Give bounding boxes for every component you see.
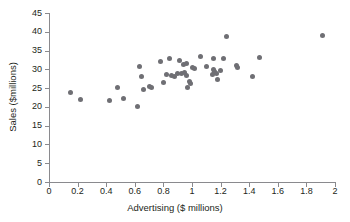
x-tick-label: 0.6: [123, 187, 147, 196]
data-point: [221, 56, 226, 61]
data-point: [215, 77, 220, 82]
data-point: [141, 87, 146, 92]
x-axis-title: Advertising ($ millions): [0, 203, 350, 213]
plot-area: [49, 13, 335, 182]
data-point: [107, 98, 112, 103]
y-tick-label: 40: [20, 27, 42, 36]
y-tick-label: 35: [20, 46, 42, 55]
x-tick-label: 0.8: [151, 187, 175, 196]
data-point: [235, 65, 240, 70]
x-tick-label: 0.2: [66, 187, 90, 196]
y-tick-label: 10: [20, 140, 42, 149]
data-point: [78, 97, 83, 102]
y-tick-label: 5: [20, 159, 42, 168]
data-point: [161, 80, 166, 85]
data-point: [167, 56, 172, 61]
y-tick-label: 25: [20, 84, 42, 93]
data-point: [164, 72, 169, 77]
data-point: [192, 66, 197, 71]
data-point: [250, 74, 255, 79]
data-point: [211, 56, 216, 61]
y-tick-label: 15: [20, 121, 42, 130]
data-point: [198, 54, 203, 59]
x-tick-label: 0: [37, 187, 61, 196]
data-point: [121, 96, 126, 101]
y-tick-label: 30: [20, 65, 42, 74]
y-tick-label: 45: [20, 9, 42, 18]
x-tick-label: 0.4: [94, 187, 118, 196]
data-point: [224, 34, 229, 39]
data-point: [115, 85, 120, 90]
data-point: [149, 85, 154, 90]
x-tick-label: 1.6: [266, 187, 290, 196]
data-point: [188, 81, 193, 86]
y-tick-label: 20: [20, 102, 42, 111]
data-point: [135, 104, 140, 109]
x-tick-label: 1.4: [237, 187, 261, 196]
x-tick-label: 1: [180, 187, 204, 196]
scatter-plot-figure: 051015202530354045 00.20.40.60.811.21.41…: [0, 0, 350, 222]
y-tick-label: 0: [20, 178, 42, 187]
data-point: [257, 55, 262, 60]
data-point: [158, 59, 163, 64]
y-axis-title: Sales ($millions): [8, 37, 18, 157]
x-tick-label: 1.8: [294, 187, 318, 196]
data-point: [139, 74, 144, 79]
x-tick-label: 1.2: [209, 187, 233, 196]
data-point: [184, 61, 189, 66]
data-point: [320, 33, 325, 38]
data-point: [137, 64, 142, 69]
data-point: [218, 68, 223, 73]
data-point: [204, 64, 209, 69]
data-point: [184, 73, 189, 78]
x-tick-label: 2: [323, 187, 347, 196]
data-point: [68, 90, 73, 95]
